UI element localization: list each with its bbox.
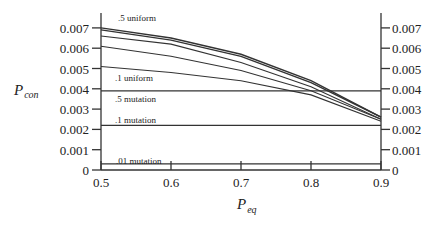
x-tick-label: 0.5 xyxy=(93,175,109,190)
y-tick-label-left: 0.006 xyxy=(60,41,90,56)
y-tick-label-right: 0 xyxy=(392,163,399,178)
y-tick-label-left: 0.004 xyxy=(60,82,90,97)
annotation-05-uniform: .5 uniform xyxy=(118,13,156,23)
x-tick-label: 0.9 xyxy=(373,175,389,190)
y-tick-label-left: 0.007 xyxy=(60,21,90,36)
y-tick-label-right: 0.006 xyxy=(392,41,422,56)
x-tick-label: 0.8 xyxy=(303,175,319,190)
y-tick-label-left: 0.002 xyxy=(60,122,89,137)
annotation-01-mutation: .1 mutation xyxy=(115,115,156,125)
y-tick-label-left: 0.005 xyxy=(60,62,89,77)
y-tick-label-right: 0.002 xyxy=(392,122,421,137)
annotation-001-mutation: .01 mutation xyxy=(116,156,162,166)
annotation-01-uniform: .1 uniform xyxy=(115,73,153,83)
line-chart: 000.0010.0010.0020.0020.0030.0030.0040.0… xyxy=(0,0,437,230)
y-tick-label-right: 0.004 xyxy=(392,82,422,97)
x-tick-label: 0.7 xyxy=(233,175,250,190)
y-tick-label-left: 0 xyxy=(83,163,90,178)
y-tick-label-right: 0.001 xyxy=(392,143,421,158)
y-tick-label-right: 0.005 xyxy=(392,62,421,77)
y-tick-label-left: 0.003 xyxy=(60,102,89,117)
y-tick-label-right: 0.007 xyxy=(392,21,422,36)
annotation-05-mutation: .5 mutation xyxy=(115,94,156,104)
x-tick-label: 0.6 xyxy=(163,175,180,190)
y-tick-label-left: 0.001 xyxy=(60,143,89,158)
axes xyxy=(92,13,390,170)
x-axis-label: Peq xyxy=(236,196,257,215)
y-axis-label: Pcon xyxy=(13,82,39,100)
y-tick-label-right: 0.003 xyxy=(392,102,421,117)
